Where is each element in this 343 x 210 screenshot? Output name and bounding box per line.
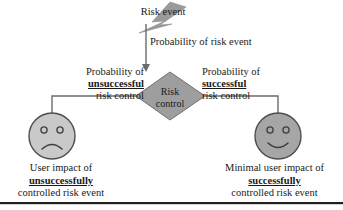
edge-right-label: Probability of successful risk control — [202, 66, 312, 101]
happy-outcome-caption-line2: successfully — [248, 175, 301, 186]
bottom-rule — [0, 202, 343, 204]
risk-control-label-line2: control — [156, 98, 184, 109]
sad-outcome-caption-line2: unsuccessfully — [29, 175, 93, 186]
edge-left-label-line1: Probability of — [86, 66, 144, 77]
edge-right-label-line3: risk control — [202, 90, 250, 101]
happy-outcome-caption-line1: Minimal user impact of — [225, 162, 324, 173]
sad-outcome-caption: User impact of unsuccessfully controlled… — [0, 162, 122, 200]
edge-right-label-line1: Probability of — [202, 66, 260, 77]
sad-outcome-caption-line1: User impact of — [30, 162, 92, 173]
edge-top-label: Probability of risk event — [150, 36, 290, 48]
risk-event-label: Risk event — [113, 6, 213, 18]
edge-left-label-line3: risk control — [96, 90, 144, 101]
frowning-face-icon — [29, 113, 75, 159]
risk-control-label-line1: Risk — [161, 86, 179, 97]
diagram-canvas: Risk event Probability of risk event Ris… — [0, 0, 343, 210]
edge-left-label-line2: unsuccessful — [88, 78, 144, 89]
edge-left-label: Probability of unsuccessful risk control — [38, 66, 144, 101]
happy-outcome-caption-line3: controlled risk event — [231, 187, 317, 198]
happy-outcome-caption: Minimal user impact of successfully cont… — [206, 162, 343, 200]
risk-control-label: Risk control — [139, 86, 201, 110]
smiling-face-icon — [255, 113, 301, 159]
sad-outcome-caption-line3: controlled risk event — [18, 187, 104, 198]
edge-right-label-line2: successful — [202, 78, 246, 89]
